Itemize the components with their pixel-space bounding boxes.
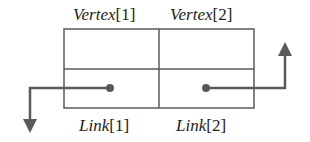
vertex-1-label: Vertex[1] <box>73 6 135 23</box>
arrow-up-icon <box>278 42 292 56</box>
link-1-name: Link <box>79 116 109 135</box>
link-1-index: [1] <box>109 116 129 135</box>
vertex-2-index: [2] <box>212 5 232 24</box>
link-1-label: Link[1] <box>79 117 129 134</box>
linked-structure-diagram: Vertex[1] Vertex[2] Link[1] Link[2] <box>0 0 310 142</box>
link-2-pointer <box>202 42 292 92</box>
link-2-name: Link <box>176 116 206 135</box>
diagram-canvas <box>0 0 310 142</box>
vertex-1-name: Vertex <box>73 5 115 24</box>
link-2-label: Link[2] <box>176 117 226 134</box>
link-2-index: [2] <box>206 116 226 135</box>
link-2-line <box>206 54 285 88</box>
vertex-2-name: Vertex <box>170 5 212 24</box>
arrow-down-icon <box>23 119 37 133</box>
vertex-2-label: Vertex[2] <box>170 6 232 23</box>
vertex-1-index: [1] <box>115 5 135 24</box>
